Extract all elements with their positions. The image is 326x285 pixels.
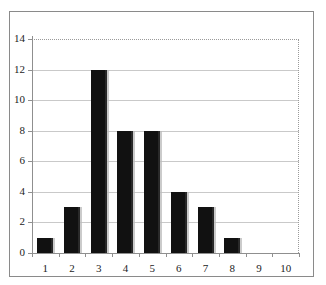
y-axis-tick [28,222,32,223]
y-axis-tick [28,70,32,71]
x-axis-tick [32,254,33,257]
x-axis-tick [112,254,113,257]
y-axis-tick [28,192,32,193]
plot-area [32,39,299,253]
x-axis-tick-label: 8 [221,262,243,274]
bar [91,70,107,253]
x-axis-tick [59,254,60,257]
bar [171,192,187,253]
y-axis-tick-label: 2 [10,216,25,227]
x-axis-tick-label: 10 [275,262,297,274]
bar [144,131,160,253]
x-axis-tick [246,254,247,257]
y-axis-tick [28,100,32,101]
x-axis-tick-label: 9 [248,262,270,274]
y-axis-tick [28,161,32,162]
plot-right-border [298,39,299,253]
y-axis-tick [28,131,32,132]
y-axis-tick-label: 4 [10,186,25,197]
bar [64,207,80,253]
x-axis-tick-label: 5 [141,262,163,274]
bar [198,207,214,253]
x-axis-line [29,253,300,254]
x-axis-tick [272,254,273,257]
x-axis-tick [139,254,140,257]
bar-chart-figure: 02468101214 12345678910 [0,0,326,285]
x-axis-tick-label: 6 [168,262,190,274]
chart-frame: 02468101214 12345678910 [9,11,314,277]
x-axis-tick-label: 3 [88,262,110,274]
y-axis-tick-label: 12 [10,64,25,75]
bar [37,238,53,253]
x-axis-tick-label: 7 [195,262,217,274]
y-axis-tick-label: 6 [10,155,25,166]
x-axis-tick-label: 4 [114,262,136,274]
bar [224,238,240,253]
y-axis-tick-label: 8 [10,125,25,136]
x-axis-tick [299,254,300,257]
x-axis-tick [192,254,193,257]
x-axis-tick-label: 1 [34,262,56,274]
y-axis-tick-label: 10 [10,94,25,105]
x-axis-tick [166,254,167,257]
y-axis-tick-label: 14 [10,33,25,44]
x-axis-tick [85,254,86,257]
y-axis-tick [28,39,32,40]
x-axis-tick-label: 2 [61,262,83,274]
y-axis-line [32,36,33,254]
x-axis-tick [219,254,220,257]
bar [117,131,133,253]
y-axis-tick-label: 0 [10,247,25,258]
